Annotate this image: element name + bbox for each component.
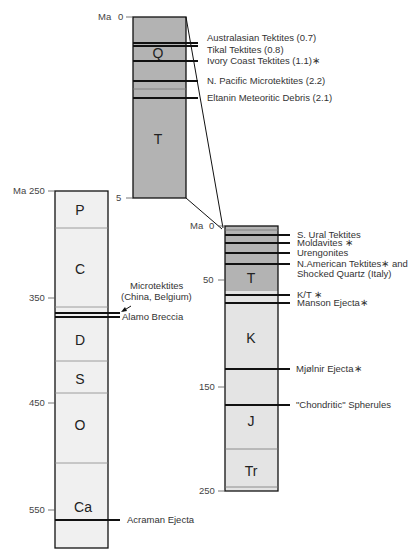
period-t-top: T bbox=[154, 131, 163, 147]
event-alamo: Alamo Breccia bbox=[122, 311, 184, 322]
left-tick-250: 250 bbox=[29, 185, 45, 196]
period-tr: Tr bbox=[245, 463, 258, 479]
left-column: Ma 250 350 450 550 P C D S O Ca Microtek… bbox=[13, 185, 195, 548]
event-tikal: Tikal Tektites (0.8) bbox=[207, 44, 284, 55]
event-manson: Manson Ejecta∗ bbox=[297, 297, 368, 308]
event-shocked-quartz: Shocked Quartz (Italy) bbox=[297, 268, 392, 279]
right-tick-150: 150 bbox=[199, 381, 215, 392]
left-tick-350: 350 bbox=[29, 292, 45, 303]
left-axis-label: Ma bbox=[13, 185, 27, 196]
period-c: C bbox=[75, 261, 85, 277]
period-q: Q bbox=[153, 45, 164, 61]
period-k: K bbox=[246, 330, 256, 346]
right-mesozoic-fill bbox=[225, 291, 278, 491]
impact-timeline-diagram: Ma 0 5 Q T Australasian Tektites (0.7) T… bbox=[0, 0, 414, 560]
event-australasian: Australasian Tektites (0.7) bbox=[207, 32, 316, 43]
period-j: J bbox=[248, 413, 255, 429]
top-column: Ma 0 5 Q T Australasian Tektites (0.7) T… bbox=[98, 11, 332, 203]
period-t-right: T bbox=[247, 270, 256, 286]
event-chondritic: "Chondritic" Spherules bbox=[296, 399, 391, 410]
event-mjolnir: Mjølnir Ejecta∗ bbox=[296, 363, 362, 374]
event-urengonites: Urengonites bbox=[297, 247, 348, 258]
left-tick-550: 550 bbox=[29, 504, 45, 515]
event-microtektites-location: (China, Belgium) bbox=[121, 291, 192, 302]
right-column: Ma 0 50 150 250 T K J Tr S. Ural Tektite… bbox=[190, 220, 408, 496]
right-tick-0: 0 bbox=[209, 220, 214, 231]
event-eltanin: Eltanin Meteoritic Debris (2.1) bbox=[207, 92, 332, 103]
right-axis-label: Ma bbox=[190, 220, 204, 231]
top-tick-0: 0 bbox=[118, 11, 123, 22]
left-column-box bbox=[55, 191, 108, 548]
period-o: O bbox=[75, 417, 86, 433]
top-tick-5: 5 bbox=[116, 192, 121, 203]
right-tick-50: 50 bbox=[203, 274, 214, 285]
period-d: D bbox=[75, 332, 85, 348]
period-ca: Ca bbox=[74, 499, 92, 515]
event-microtektites: Microtektites bbox=[130, 280, 184, 291]
right-tick-250: 250 bbox=[199, 485, 215, 496]
period-p: P bbox=[75, 202, 84, 218]
event-acraman: Acraman Ejecta bbox=[127, 514, 195, 525]
top-axis-label: Ma bbox=[98, 11, 112, 22]
period-s: S bbox=[75, 371, 84, 387]
event-n-pacific: N. Pacific Microtektites (2.2) bbox=[207, 75, 325, 86]
event-ivory-coast: Ivory Coast Tektites (1.1)∗ bbox=[207, 55, 320, 66]
left-tick-450: 450 bbox=[29, 397, 45, 408]
